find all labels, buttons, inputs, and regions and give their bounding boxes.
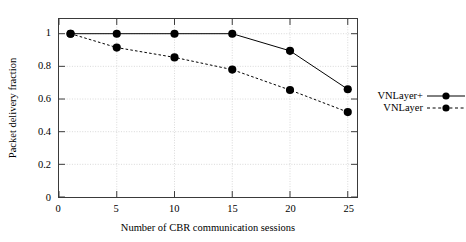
plot-area <box>58 18 358 198</box>
data-point-s1-i0 <box>66 30 74 38</box>
x-tick-label-1: 5 <box>96 204 136 215</box>
data-point-s1-i2 <box>170 53 178 61</box>
series-line-1 <box>71 34 348 112</box>
data-point-s0-i5 <box>344 85 352 93</box>
data-point-s1-i4 <box>286 86 294 94</box>
data-point-s0-i1 <box>113 30 121 38</box>
y-tick-label-4: 0.8 <box>11 61 51 72</box>
legend-label-1: VNLayer <box>383 102 423 114</box>
legend-label-0: VNLayer+ <box>377 90 423 102</box>
y-axis-label-text: Packet delivery fraction <box>7 58 18 158</box>
x-axis-label: Number of CBR communication sessions <box>58 222 358 233</box>
y-tick-label-1: 0.2 <box>11 160 51 171</box>
legend-item-1: VNLayer <box>372 102 466 114</box>
data-series-layer <box>59 19 357 197</box>
x-tick-label-3: 15 <box>212 204 252 215</box>
data-point-s0-i3 <box>228 30 236 38</box>
y-tick-label-2: 0.4 <box>11 127 51 138</box>
chart-legend: VNLayer+ VNLayer <box>372 90 466 114</box>
x-tick-label-5: 25 <box>329 204 369 215</box>
x-tick-label-0: 0 <box>38 204 78 215</box>
legend-item-0: VNLayer+ <box>372 90 466 102</box>
y-tick-label-3: 0.6 <box>11 94 51 105</box>
data-point-s1-i3 <box>228 66 236 74</box>
x-tick-label-2: 10 <box>154 204 194 215</box>
y-tick-label-5: 1 <box>11 28 51 39</box>
chart-figure: Packet delivery fraction 00.20.40.60.81 … <box>0 0 466 242</box>
legend-swatch-solid-line <box>426 90 466 102</box>
y-tick-label-0: 0 <box>11 193 51 204</box>
data-point-s1-i1 <box>113 44 121 52</box>
data-point-s0-i4 <box>286 47 294 55</box>
x-tick-label-4: 20 <box>271 204 311 215</box>
data-point-s0-i2 <box>170 30 178 38</box>
series-line-0 <box>71 34 348 90</box>
data-point-s1-i5 <box>344 108 352 116</box>
legend-swatch-dashed-line <box>426 102 466 114</box>
